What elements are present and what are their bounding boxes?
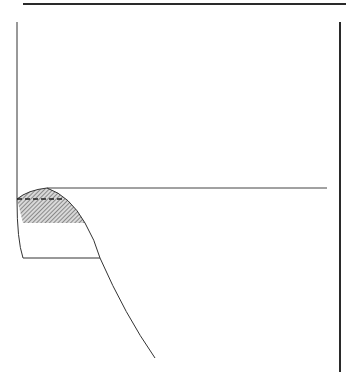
technical-diagram xyxy=(0,0,346,372)
